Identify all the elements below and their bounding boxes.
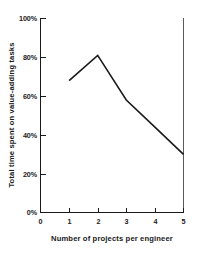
x-axis-title: Number of projects per engineer: [51, 234, 173, 243]
y-tick-label-0: 0%: [27, 208, 38, 217]
y-tick-label-60: 60%: [23, 92, 38, 101]
chart-container: 100% 80% 60% 40% 20% 0% 0 1 2 3 4 5 Numb…: [0, 0, 199, 257]
line-chart: 100% 80% 60% 40% 20% 0% 0 1 2 3 4 5 Numb…: [0, 0, 199, 257]
x-tick-label-2: 2: [97, 217, 101, 226]
x-tick-label-3: 3: [125, 217, 129, 226]
x-tick-label-0: 0: [39, 217, 43, 226]
x-tick-label-5: 5: [182, 217, 186, 226]
y-tick-label-80: 80%: [23, 53, 38, 62]
x-tick-label-4: 4: [154, 217, 158, 226]
y-tick-label-100: 100%: [19, 14, 38, 23]
x-tick-label-1: 1: [68, 217, 72, 226]
y-tick-label-20: 20%: [23, 170, 38, 179]
y-tick-label-40: 40%: [23, 131, 38, 140]
y-axis-title: Total time spent on value-adding tasks: [7, 42, 16, 187]
